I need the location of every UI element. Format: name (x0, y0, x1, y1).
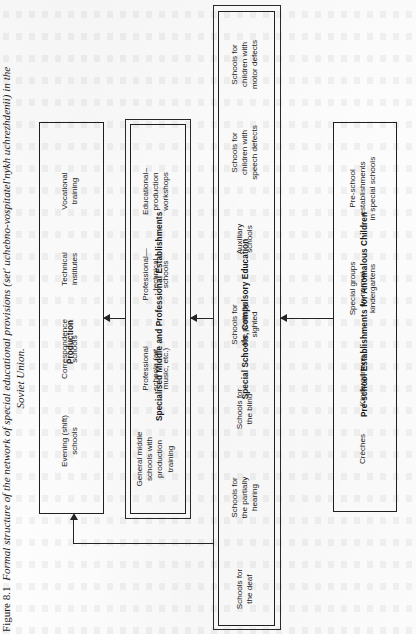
connector-special-to-production-vertical (73, 520, 75, 544)
arrowhead-special-to-specialised (190, 314, 197, 322)
figure-page: Figure 8.1 Formal structure of the netwo… (0, 0, 416, 634)
arrowhead-preschool-to-special (280, 314, 287, 322)
item-special-schools-2: Schools for the blind (235, 365, 257, 453)
item-specialised-middle-1: Professional schools (art, music, etc.) (141, 325, 174, 413)
item-pre-school-2: Special groups in normal kindergartens (348, 245, 381, 333)
item-specialised-middle-3: Educational– production workshops (141, 148, 174, 236)
arrowhead-special-to-production (70, 513, 78, 520)
item-special-schools-6: Schools for children with motor defects (230, 21, 263, 109)
figure-number: Figure 8.1 (0, 586, 12, 632)
connector-special-to-production-horizontal (73, 543, 214, 545)
figure-title-line-1: Formal structure of the network of speci… (0, 67, 12, 581)
connector-preschool-to-special (281, 318, 333, 320)
arrowhead-specialised-to-production (103, 314, 110, 322)
figure-title-line-2: Soviet Union. (14, 67, 28, 632)
item-specialised-middle-2: Professional— technical schools (141, 231, 174, 319)
figure-caption: Figure 8.1 Formal structure of the netwo… (0, 0, 46, 634)
item-production-0: Evening (shift) schools (60, 396, 82, 486)
item-production-3: Vocational training (60, 146, 82, 236)
item-production-2: Technical institutes (60, 224, 82, 314)
item-pre-school-1: Kindergartens (358, 337, 370, 425)
item-special-schools-3: Schools for the partially sighted (230, 281, 263, 369)
item-special-schools-5: Schools for children with speech defects (230, 109, 263, 197)
item-special-schools-0: Schools for the deaf (235, 545, 257, 633)
item-pre-school-3: Pre-school establishments in special sch… (348, 145, 381, 233)
item-special-schools-1: Schools for the partially hearing (230, 454, 263, 542)
figure-caption-text: Figure 8.1 Formal structure of the netwo… (0, 67, 27, 632)
item-special-schools-4: Auxiliary schools (235, 195, 257, 283)
item-specialised-middle-0: General middle schools with production t… (135, 415, 179, 503)
item-production-1: Correspondence schools (60, 304, 82, 394)
